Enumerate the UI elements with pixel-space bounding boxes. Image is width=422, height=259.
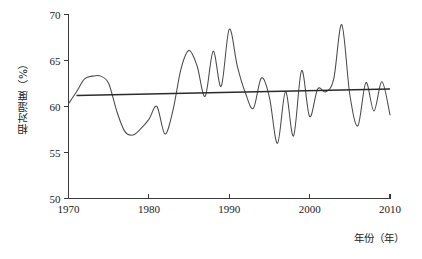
y-axis-ticks (64, 15, 69, 199)
y-axis-tick-labels: 5055606570 (50, 9, 62, 205)
x-tick-label: 1980 (138, 203, 161, 215)
y-axis-title: 相对湿度（%） (18, 58, 34, 134)
y-tick-label: 65 (50, 55, 62, 67)
x-axis-ticks (69, 194, 391, 199)
y-tick-label: 70 (50, 9, 62, 21)
x-axis-tick-labels: 19701980199020002010 (58, 203, 402, 215)
x-tick-label: 2010 (379, 203, 402, 215)
x-tick-label: 1990 (218, 203, 241, 215)
humidity-series-line (69, 25, 391, 144)
x-axis-title: 年份（年） (354, 230, 404, 245)
y-tick-label: 55 (50, 147, 62, 159)
humidity-trend-chart: 5055606570 19701980199020002010 相对湿度（%） … (0, 0, 422, 259)
x-tick-label: 1970 (58, 203, 81, 215)
y-tick-label: 60 (50, 101, 62, 113)
linear-trend-line (77, 89, 390, 95)
chart-plot-area: 5055606570 19701980199020002010 (0, 0, 422, 259)
x-tick-label: 2000 (299, 203, 322, 215)
